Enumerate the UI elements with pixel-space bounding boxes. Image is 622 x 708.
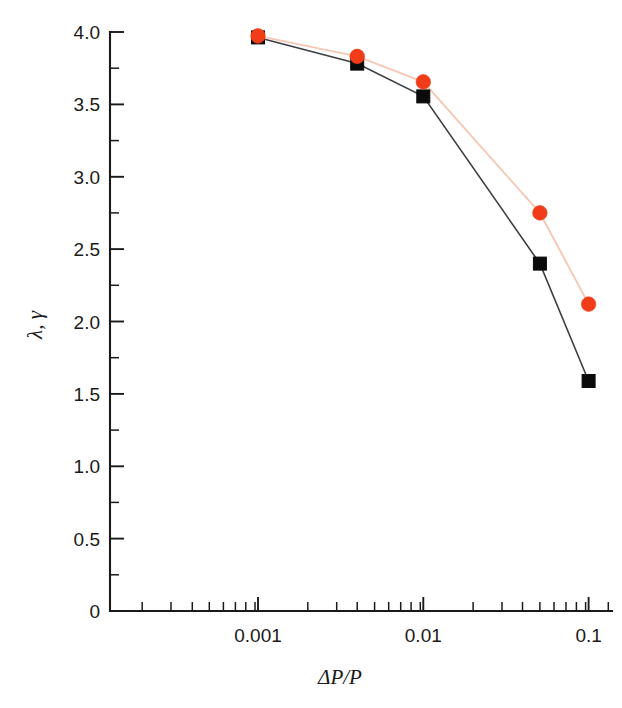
y-tick-label-2: 1.0 [74,456,100,477]
y-axis-tick-labels: 0 0.5 1.0 1.5 2.0 2.5 3.0 3.5 4.0 [74,22,100,622]
x-axis-title: ΔP/P [317,665,362,689]
data-point-lambda-2 [417,90,430,103]
y-tick-label-7: 3.5 [74,94,100,115]
chart-svg: 0 0.5 1.0 1.5 2.0 2.5 3.0 3.5 4.0 [0,0,622,708]
data-point-gamma-4 [581,297,596,312]
y-tick-label-3: 1.5 [74,384,100,405]
x-tick-label-2: 0.1 [575,625,601,646]
y-tick-label-1: 0.5 [74,529,100,550]
data-point-lambda-4 [582,375,595,388]
x-tick-label-1: 0.01 [405,625,442,646]
chart-figure: 0 0.5 1.0 1.5 2.0 2.5 3.0 3.5 4.0 [0,0,622,708]
y-tick-label-8: 4.0 [74,22,100,43]
y-tick-label-5: 2.5 [74,239,100,260]
data-point-gamma-2 [416,75,431,90]
y-tick-label-6: 3.0 [74,167,100,188]
y-tick-label-0: 0 [89,601,100,622]
y-tick-label-4: 2.0 [74,312,100,333]
data-point-gamma-3 [533,206,548,221]
data-point-gamma-0 [251,29,266,44]
data-point-lambda-3 [533,257,546,270]
y-axis-title: λ, γ [23,310,47,340]
x-tick-label-0: 0.001 [234,625,282,646]
data-point-gamma-1 [350,49,365,64]
